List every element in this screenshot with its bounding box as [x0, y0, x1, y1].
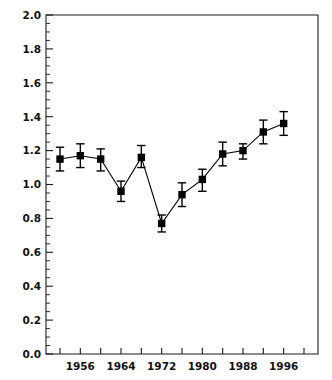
x-axis-tick-label: 1972 — [147, 360, 176, 372]
y-axis-tick-label: 0.4 — [22, 280, 41, 292]
data-point-marker — [219, 150, 226, 157]
chart-container: 0.00.20.40.60.81.01.21.41.61.82.01956196… — [0, 0, 332, 380]
data-point-marker — [239, 147, 246, 154]
line-chart: 0.00.20.40.60.81.01.21.41.61.82.01956196… — [0, 0, 332, 380]
y-axis-tick-label: 1.0 — [22, 178, 41, 190]
data-point-marker — [199, 176, 206, 183]
data-point-marker — [117, 188, 124, 195]
y-axis-tick-label: 1.6 — [22, 77, 41, 89]
data-point-marker — [77, 152, 84, 159]
data-point-marker — [260, 128, 267, 135]
y-axis-tick-label: 2.0 — [22, 9, 41, 21]
x-axis-tick-label: 1964 — [106, 360, 135, 372]
y-axis-tick-label: 0.2 — [22, 314, 41, 326]
x-axis-tick-label: 1996 — [269, 360, 298, 372]
data-point-marker — [138, 154, 145, 161]
y-axis-tick-label: 1.4 — [22, 111, 41, 123]
x-axis-tick-label: 1980 — [188, 360, 217, 372]
data-point-marker — [178, 191, 185, 198]
y-axis-tick-label: 0.8 — [22, 212, 41, 224]
data-point-marker — [158, 220, 165, 227]
x-axis-tick-label: 1988 — [228, 360, 257, 372]
data-line — [60, 123, 284, 223]
data-point-marker — [56, 155, 63, 162]
x-axis-tick-label: 1956 — [66, 360, 95, 372]
data-point-marker — [97, 155, 104, 162]
y-axis-tick-label: 1.8 — [22, 43, 41, 55]
y-axis-tick-label: 1.2 — [22, 144, 41, 156]
y-axis-tick-label: 0.0 — [22, 348, 41, 360]
data-point-marker — [280, 120, 287, 127]
y-axis-tick-label: 0.6 — [22, 246, 41, 258]
